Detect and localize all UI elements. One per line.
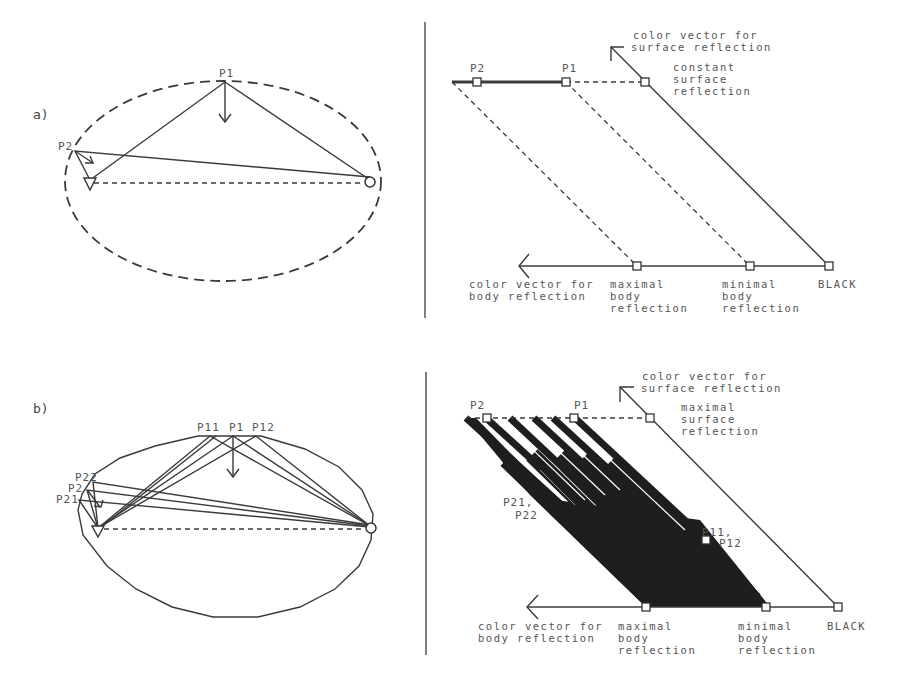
marker-surface [646, 414, 654, 422]
marker-p1 [570, 414, 578, 422]
max-body-label: maximal [610, 278, 665, 290]
label-p11: P11 [197, 421, 220, 434]
marker-min-body [746, 262, 754, 270]
surface-note-label: maximal [681, 401, 736, 413]
surface-note-label: reflection [681, 425, 759, 437]
dashed-parallel-min [566, 82, 750, 266]
label-p2: P2 [470, 62, 485, 75]
panel-a-label: a) [33, 107, 49, 122]
min-body-label: reflection [722, 302, 800, 314]
panel-b-colorspace: P2 P1 P21, P22 P11, P12 color vector for… [466, 370, 866, 656]
panel-a-scene: a) P1 P2 [33, 67, 381, 281]
surface-vector-label: surface reflection [641, 382, 782, 394]
ray-via-p2 [75, 151, 370, 180]
light-source-circle-icon [366, 523, 376, 533]
marker-black [825, 262, 833, 270]
label-p21-p22: P22 [515, 509, 538, 522]
marker-p1 [562, 78, 570, 86]
body-vector-label: color vector for [478, 620, 603, 632]
marker-black [834, 603, 842, 611]
label-p21-p22: P21, [503, 496, 534, 509]
black-label: BLACK [827, 620, 866, 632]
label-p2: P2 [58, 140, 73, 153]
body-vector-label: body reflection [478, 632, 595, 644]
surface-note-label: surface [673, 73, 728, 85]
surface-note-label: constant [673, 61, 736, 73]
surface-vector-label: color vector for [633, 29, 758, 41]
label-p2: P2 [470, 399, 485, 412]
label-p1: P1 [574, 399, 589, 412]
light-source-circle-icon [365, 177, 375, 187]
min-body-label: minimal [738, 620, 793, 632]
body-vector-label: color vector for [469, 278, 594, 290]
label-p12: P12 [252, 421, 275, 434]
marker-surface [641, 78, 649, 86]
normal-arrow-p1-icon [227, 437, 239, 477]
label-p1: P1 [219, 67, 234, 80]
label-p1: P1 [562, 62, 577, 75]
label-p1: P1 [229, 421, 244, 434]
surface-note-label: reflection [673, 85, 751, 97]
body-vector-label: body reflection [469, 290, 586, 302]
dashed-parallel-max [452, 82, 637, 266]
polygon-boundary [78, 436, 373, 617]
max-body-label: maximal [618, 620, 673, 632]
black-label: BLACK [818, 278, 857, 290]
marker-max-body [642, 603, 650, 611]
camera-triangle-icon [84, 178, 96, 190]
min-body-label: body [722, 290, 753, 302]
label-p11-p12: P12 [719, 537, 742, 550]
marker-p2 [473, 78, 481, 86]
surface-note-label: surface [681, 413, 736, 425]
dashed-ellipse-boundary [65, 81, 381, 281]
label-p21: P21 [56, 493, 79, 506]
max-body-label: reflection [610, 302, 688, 314]
min-body-label: body [738, 632, 769, 644]
marker-min-body [762, 603, 770, 611]
panel-a-colorspace: P2 P1 color vector for surface reflectio… [452, 29, 857, 314]
panel-b-label: b) [33, 401, 49, 416]
normal-arrow-p1-icon [219, 83, 231, 122]
min-body-label: minimal [722, 278, 777, 290]
max-body-label: reflection [618, 644, 696, 656]
surface-vector-label: color vector for [642, 370, 767, 382]
panel-b-scene: b) P11 P1 P12 P22 P2 P21 [33, 401, 376, 617]
min-body-label: reflection [738, 644, 816, 656]
max-body-label: body [610, 290, 641, 302]
marker-max-body [633, 262, 641, 270]
surface-vector-label: surface reflection [631, 41, 772, 53]
ray-extra [100, 436, 216, 528]
color-cluster-band [466, 418, 770, 607]
camera-triangle-icon [92, 526, 104, 537]
max-body-label: body [618, 632, 649, 644]
marker-p2 [483, 414, 491, 422]
figure-canvas: a) P1 P2 [0, 0, 916, 690]
